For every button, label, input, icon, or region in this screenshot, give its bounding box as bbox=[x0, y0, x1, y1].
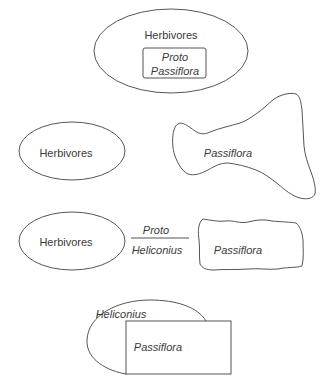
proto-label-1: Proto bbox=[162, 51, 188, 63]
herbivores-label-3: Herbivores bbox=[39, 236, 92, 248]
passiflora-label-1: Passiflora bbox=[151, 65, 199, 77]
passiflora-label-2: Passiflora bbox=[204, 147, 252, 159]
proto-link-label: Proto bbox=[143, 224, 169, 236]
herbivores-label-1: Herbivores bbox=[144, 29, 197, 41]
heliconius-link-label: Heliconius bbox=[132, 244, 183, 256]
herbivores-label-2: Herbivores bbox=[39, 147, 92, 159]
heliconius-label-4: Heliconius bbox=[96, 308, 147, 320]
passiflora-label-4: Passiflora bbox=[134, 341, 182, 353]
passiflora-label-3: Passiflora bbox=[214, 244, 262, 256]
